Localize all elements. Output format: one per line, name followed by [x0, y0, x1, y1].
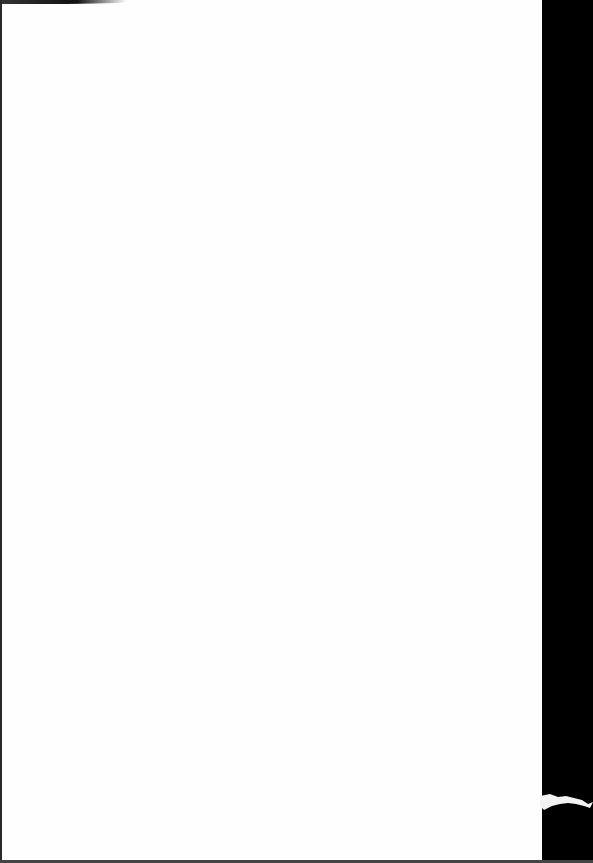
blank-scanned-page: [0, 0, 544, 860]
torn-paper-fragment: [538, 788, 593, 818]
top-edge-smudge: [2, 0, 127, 4]
scanner-background-margin: [542, 0, 593, 863]
